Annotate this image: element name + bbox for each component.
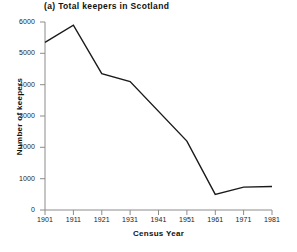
- x-tick-label-1921: 1921: [87, 216, 117, 223]
- y-tick-label-3000: 3000: [5, 112, 35, 119]
- y-tick-label-4000: 4000: [5, 81, 35, 88]
- y-tick-label-1000: 1000: [5, 175, 35, 182]
- x-tick-label-1981: 1981: [257, 216, 287, 223]
- plot-area: [0, 0, 297, 252]
- x-tick-label-1931: 1931: [115, 216, 145, 223]
- x-tick-label-1961: 1961: [200, 216, 230, 223]
- x-tick-label-1901: 1901: [30, 216, 60, 223]
- x-tick-label-1911: 1911: [58, 216, 88, 223]
- y-tick-label-6000: 6000: [5, 18, 35, 25]
- y-tick-label-2000: 2000: [5, 143, 35, 150]
- y-tick-marks: [40, 22, 45, 210]
- data-series-line: [45, 25, 272, 194]
- x-tick-label-1951: 1951: [172, 216, 202, 223]
- chart-figure: (a) Total keepers in Scotland Number of …: [0, 0, 297, 252]
- y-tick-label-5000: 5000: [5, 49, 35, 56]
- x-tick-label-1971: 1971: [229, 216, 259, 223]
- x-tick-label-1941: 1941: [144, 216, 174, 223]
- y-tick-label-0: 0: [5, 206, 35, 213]
- x-tick-marks: [45, 210, 272, 215]
